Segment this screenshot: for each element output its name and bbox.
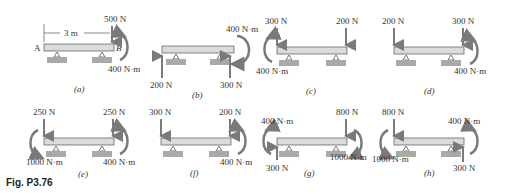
beam [394,47,464,54]
force-label: 500 N [104,14,127,24]
panel-caption: (c) [306,86,316,96]
panel-caption: (h) [424,168,435,178]
panel-caption: (d) [424,86,435,96]
moment-label: 400 N·m [220,157,252,167]
moment-label: 400 N·m [448,116,480,126]
beam [44,138,114,145]
beam [394,138,464,145]
beam [277,138,347,145]
moment-label: 400 N·m [226,24,258,34]
moment-label: 400 N·m [454,66,486,76]
force-label: 250 N [33,107,56,117]
force-label: 800 N [382,107,405,117]
moment-arrow-icon [470,38,478,64]
point-a-label: A [34,43,41,53]
force-label: 300 N [453,163,476,173]
force-label: 300 N [452,16,475,26]
moment-arrow-icon [120,128,128,154]
panel-caption: (f) [190,168,199,178]
moment-arrow-icon [264,36,272,62]
panel-caption: (a) [74,84,85,94]
moment-label: 1000 N·m [330,152,367,162]
panel-h: 800 N 300 N 400 N·m 1000 N·m (h) [372,107,480,178]
beam [277,47,347,54]
force-label: 800 N [336,107,359,117]
force-label: 200 N [382,16,405,26]
force-label: 300 N [220,80,243,90]
panel-c: 300 N 200 N 400 N·m (c) [256,16,359,96]
panel-caption: (e) [78,169,88,179]
moment-arrow-icon [380,130,388,156]
moment-label: 400 N·m [103,157,135,167]
moment-label: 1000 N·m [26,157,63,167]
force-label: 200 N [150,80,173,90]
dimension-label: 3 m [64,28,78,38]
moment-arrow-icon [30,130,38,156]
moment-arrow-icon [470,128,478,154]
beam [161,138,231,145]
moment-arrow-icon [237,36,249,64]
panel-f: 300 N 200 N 400 N·m (f) [149,107,252,178]
panel-d: 200 N 300 N 400 N·m (d) [382,16,486,96]
beam [44,44,114,51]
moment-label: 400 N·m [256,66,288,76]
figure-label: Fig. P3.76 [6,177,53,188]
panel-g: 800 N 300 N 400 N·m 1000 N·m (g) [261,107,367,178]
force-label: 200 N [219,107,242,117]
force-label: 300 N [149,107,172,117]
panel-caption: (b) [192,90,203,100]
panel-b: 200 N 300 N 400 N·m (b) [150,24,258,100]
force-label: 200 N [336,16,359,26]
panel-e: 250 N 250 N 1000 N·m 400 N·m (e) [26,107,135,179]
moment-label: 400 N·m [108,64,140,74]
point-b-label: B [116,43,122,53]
beam [162,46,234,53]
moment-label: 1000 N·m [372,154,409,164]
force-label: 300 N [266,163,289,173]
panel-a: 3 m A B 500 N 400 N·m (a) [34,14,140,94]
moment-label: 400 N·m [261,116,293,126]
force-label: 250 N [103,107,126,117]
moment-arrow-icon [238,128,246,154]
moment-arrow-icon [263,128,271,154]
beam-loading-figure: 3 m A B 500 N 400 N·m (a) 200 N 300 N 40… [0,0,510,193]
panel-caption: (g) [304,168,315,178]
force-label: 300 N [265,16,288,26]
